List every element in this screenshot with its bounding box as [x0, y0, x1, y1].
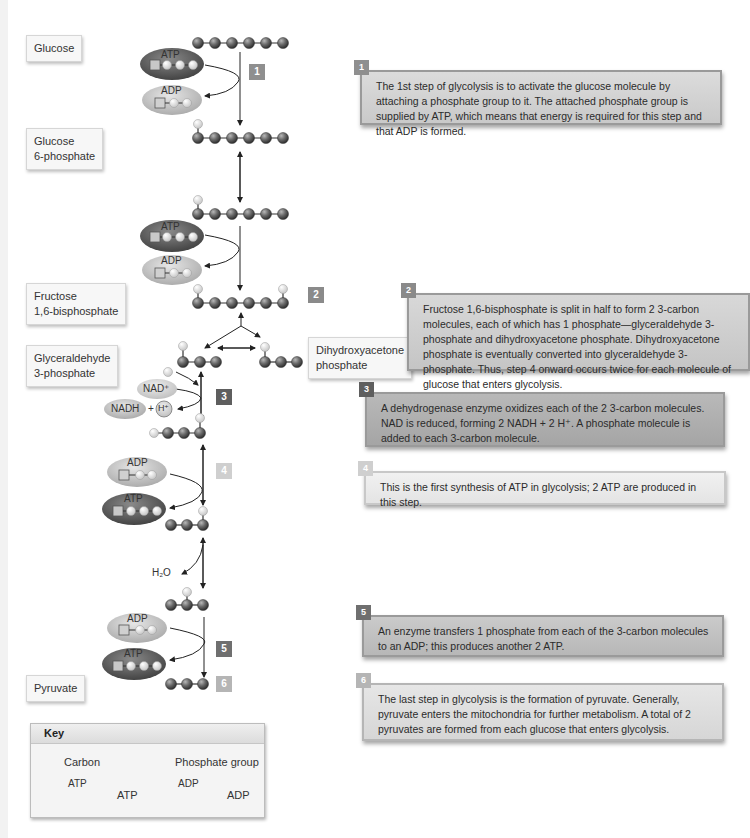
- step-4-description: 4 This is the first synthesis of ATP in …: [364, 471, 726, 505]
- label-line: Glucose: [34, 134, 95, 149]
- atp-key-label: ATP: [117, 789, 138, 801]
- atp-label: ATP: [161, 221, 180, 232]
- step-2-badge: 2: [308, 287, 324, 303]
- label-line: Fructose: [34, 289, 118, 304]
- label-line: Dihydroxyacetone: [316, 343, 404, 358]
- glucose-label-text: Glucose: [34, 42, 74, 54]
- label-line: 3-phosphate: [34, 366, 110, 381]
- dihydroxyacetone-phosphate-molecule: [260, 343, 303, 368]
- step-4-badge: 4: [358, 461, 373, 476]
- plus-sign: +: [148, 403, 154, 414]
- bisphosphoglycerate-molecule: [150, 414, 206, 439]
- carbon-key-label: Carbon: [64, 756, 100, 768]
- label-line: 1,6-bisphosphate: [34, 304, 118, 319]
- step-1-badge: 1: [354, 60, 369, 75]
- step-4-badge: 4: [216, 463, 232, 479]
- pyruvate-label-text: Pyruvate: [34, 682, 77, 694]
- step-6-description: 6 The last step in glycolysis is the for…: [362, 683, 724, 741]
- pyruvate-label: Pyruvate: [26, 675, 85, 702]
- glucose-molecule: [193, 38, 289, 49]
- label-line: 6-phosphate: [34, 149, 95, 164]
- step-5-description: 5 An enzyme transfers 1 phosphate from e…: [362, 615, 724, 657]
- glyceraldehyde-3-phosphate-label: Glyceraldehyde 3-phosphate: [26, 345, 118, 387]
- adp-label: ADP: [127, 457, 148, 468]
- step-2-badge: 2: [401, 283, 416, 298]
- h-plus-label: H⁺: [158, 403, 170, 413]
- step-3-description: 3 A dehydrogenase enzyme oxidizes each o…: [365, 392, 725, 447]
- adp-label: ADP: [161, 255, 182, 266]
- adp-label: ADP: [161, 85, 182, 96]
- step-text: An enzyme transfers 1 phosphate from eac…: [378, 625, 708, 652]
- step-text: Fructose 1,6-bisphosphate is split in ha…: [423, 303, 731, 390]
- label-line: Glyceraldehyde: [34, 351, 110, 366]
- step-1-description: 1 The 1st step of glycolysis is to activ…: [360, 70, 722, 125]
- adp-key-label: ADP: [227, 789, 250, 801]
- nadh-label: NADH: [111, 403, 139, 414]
- adp-label: ADP: [127, 613, 148, 624]
- phosphate-key-label: Phosphate group: [175, 756, 259, 768]
- step-5-badge: 5: [356, 605, 371, 620]
- step-6-badge: 6: [356, 673, 371, 688]
- fructose-bisphosphate-label: Fructose 1,6-bisphosphate: [26, 283, 126, 325]
- atp-key-ellipse-label: ATP: [68, 778, 87, 789]
- label-line: phosphate: [316, 358, 404, 373]
- step-text: The last step in glycolysis is the forma…: [378, 693, 691, 735]
- atp-label: ATP: [124, 648, 143, 659]
- atp-label: ATP: [161, 49, 180, 60]
- adp-key-ellipse-label: ADP: [178, 778, 199, 789]
- pyruvate-molecule: [166, 679, 209, 690]
- atp-label: ATP: [124, 493, 143, 504]
- step-text: A dehydrogenase enzyme oxidizes each of …: [381, 402, 704, 444]
- phosphoglycerate-molecule: [166, 507, 209, 531]
- glucose-6-phosphate-label: Glucose 6-phosphate: [26, 128, 103, 170]
- phosphoenolpyruvate-molecule: [166, 588, 209, 611]
- key-legend: Key: [30, 723, 265, 818]
- glyceraldehyde-3-phosphate-molecule: [178, 342, 222, 368]
- step-2-description: 2 Fructose 1,6-bisphosphate is split in …: [407, 293, 750, 371]
- step-6-badge: 6: [216, 676, 232, 692]
- dihydroxyacetone-phosphate-label: Dihydroxyacetone phosphate: [308, 337, 412, 379]
- step-5-badge: 5: [216, 641, 232, 657]
- step-text: This is the first synthesis of ATP in gl…: [380, 481, 696, 508]
- step-3-badge: 3: [216, 389, 232, 405]
- key-title: Key: [31, 724, 264, 744]
- water-label: H₂O: [152, 567, 171, 578]
- nad-plus-label: NAD⁺: [143, 383, 169, 394]
- glucose-label: Glucose: [26, 35, 82, 62]
- step-3-badge: 3: [359, 382, 374, 397]
- step-1-badge: 1: [249, 64, 265, 80]
